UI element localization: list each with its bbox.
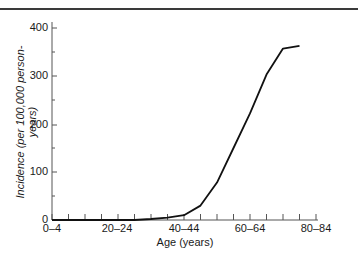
x-tick-label: 0–4 <box>27 222 77 234</box>
x-axis-title: Age (years) <box>135 236 235 248</box>
y-axis-title: Incidence (per 100,000 person-years) <box>14 32 38 212</box>
x-tick-label: 20–24 <box>92 222 142 234</box>
y-ticks <box>52 28 57 196</box>
x-tick-label: 80–84 <box>291 222 341 234</box>
x-tick-label: 60–64 <box>225 222 275 234</box>
incidence-line <box>52 46 300 220</box>
x-tick-label: 40–44 <box>159 222 209 234</box>
